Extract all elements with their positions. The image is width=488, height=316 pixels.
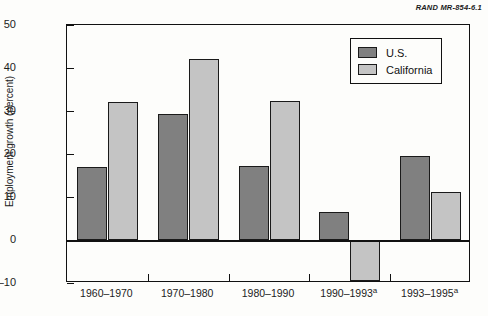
bar-california-2 [270, 101, 300, 240]
x-axis-tick [390, 274, 391, 281]
y-axis-tick [67, 283, 74, 284]
x-axis-tick-label: 1960–1970 [80, 287, 133, 299]
x-axis-tick-label: 1993–1995a [401, 287, 458, 299]
y-axis-tick-label: 10 [0, 190, 16, 202]
bar-us-1 [158, 114, 188, 240]
legend-swatch-california-icon [358, 64, 377, 75]
y-axis-tick [67, 111, 74, 112]
bar-us-4 [400, 156, 430, 240]
legend-swatch-us-icon [358, 47, 377, 58]
source-credit-label: RAND MR-854-6.1 [416, 3, 482, 12]
x-axis-tick [148, 274, 149, 281]
legend-label-california: California [386, 64, 432, 76]
y-axis-tick-label: 30 [0, 104, 16, 116]
y-axis-tick [67, 25, 74, 26]
y-axis-tick-label: 40 [0, 61, 16, 73]
bar-us-0 [77, 167, 107, 240]
x-axis-tick-label: 1980–1990 [242, 287, 295, 299]
bar-california-3 [350, 240, 380, 281]
y-axis-tick-label: 50 [0, 18, 16, 30]
y-axis-tick-label: 0 [0, 233, 16, 245]
y-axis-tick [67, 154, 74, 155]
y-axis-title-text: Employment growth (percent) [5, 75, 16, 206]
y-axis-tick [67, 68, 74, 69]
y-axis-tick [67, 197, 74, 198]
plot-frame: U.S. California [66, 24, 470, 282]
bar-us-3 [319, 212, 349, 240]
x-axis-tick [309, 274, 310, 281]
x-axis-tick-label: 1970–1980 [161, 287, 214, 299]
x-axis-tick-label: 1990–1993a [320, 287, 377, 299]
y-axis-tick-label: –10 [0, 276, 16, 288]
legend-item-california: California [358, 61, 432, 78]
x-axis-label-footnote: a [373, 286, 377, 295]
bar-california-1 [189, 59, 219, 240]
legend-label-us: U.S. [386, 47, 407, 59]
y-axis-tick-label: 20 [0, 147, 16, 159]
zero-baseline [67, 240, 469, 242]
bar-us-2 [239, 166, 269, 240]
bar-california-0 [108, 102, 138, 240]
bar-california-4 [431, 192, 461, 240]
chart-figure: RAND MR-854-6.1 Employment growth (perce… [0, 0, 488, 316]
legend-item-us: U.S. [358, 44, 432, 61]
x-axis-tick [229, 274, 230, 281]
chart-legend: U.S. California [350, 38, 442, 84]
x-axis-label-footnote: a [454, 286, 458, 295]
